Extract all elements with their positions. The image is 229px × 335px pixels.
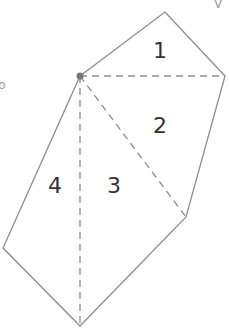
polygon-outline [3,12,225,326]
fragment-top-right: V [214,0,223,11]
region-label-4: 4 [48,173,62,198]
region-label-1: 1 [153,38,167,63]
diagonal-a-d [80,76,186,217]
region-label-3: 3 [107,173,121,198]
triangulated-polygon-diagram: 1 2 3 4 V o [0,0,229,335]
region-label-2: 2 [153,113,167,138]
fragment-left: o [0,78,6,92]
vertex-dot [77,73,84,80]
